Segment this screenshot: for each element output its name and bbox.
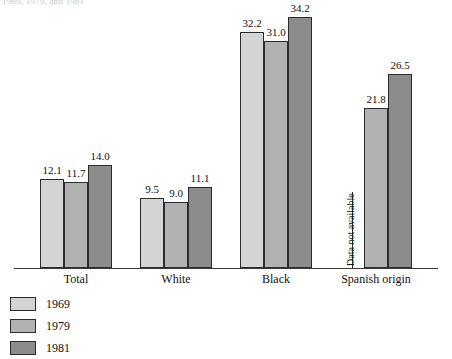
bar-value-label: 14.0 [80, 151, 120, 162]
data-not-available-label: Data not available [345, 193, 356, 266]
legend-label-1969: 1969 [46, 296, 70, 312]
bar-value-label: 34.2 [280, 3, 320, 14]
category-label: Spanish origin [316, 272, 436, 287]
plot-area: Total12.111.714.0White9.59.011.1Black32.… [0, 0, 452, 276]
bar [40, 179, 64, 268]
bar [288, 17, 312, 268]
legend-swatch-1981 [10, 341, 36, 355]
x-axis-baseline [14, 268, 438, 269]
bar [364, 108, 388, 268]
bar-value-label: 26.5 [380, 60, 420, 71]
bar [140, 198, 164, 268]
legend-swatch-1969 [10, 297, 36, 311]
bar-chart: 1969, 1979, and 1981 Total12.111.714.0Wh… [0, 0, 452, 359]
bar [240, 32, 264, 268]
bar [388, 74, 412, 268]
legend-label-1981: 1981 [46, 340, 70, 356]
legend-label-1979: 1979 [46, 318, 70, 334]
bar [188, 187, 212, 268]
bar [88, 165, 112, 268]
legend-swatch-1979 [10, 319, 36, 333]
bar [264, 41, 288, 268]
bar-value-label: 11.1 [180, 173, 220, 184]
bar [64, 182, 88, 268]
bar [164, 202, 188, 268]
